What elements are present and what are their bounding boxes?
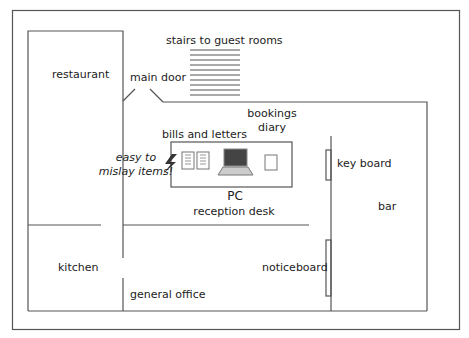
warning-label-2: mislay items! <box>99 165 173 178</box>
reception-desk-label: reception desk <box>193 205 274 218</box>
restaurant-label: restaurant <box>52 68 109 81</box>
stairs-icon <box>190 50 240 95</box>
warning-label-1: easy to <box>116 151 156 164</box>
diary-label-text: diary <box>258 121 286 134</box>
noticeboard-label: noticeboard <box>262 261 328 274</box>
pc-label: PC <box>227 190 243 203</box>
bar-label: bar <box>378 200 396 213</box>
kitchen-label: kitchen <box>58 261 99 274</box>
bills-label: bills and letters <box>162 128 247 141</box>
bills-icon <box>182 152 209 169</box>
restaurant-wall <box>28 31 123 145</box>
bookings-label: bookings <box>247 107 297 120</box>
floor-plan-drawing <box>0 0 469 338</box>
key-board-shape <box>326 150 331 180</box>
diary-icon <box>265 155 277 170</box>
door-right-leaf <box>150 89 163 102</box>
main-door-label: main door <box>130 71 186 84</box>
door-left-leaf <box>123 89 135 101</box>
general-office-label: general office <box>130 288 206 301</box>
pc-icon <box>218 149 253 175</box>
stairs-label: stairs to guest rooms <box>166 34 283 47</box>
key-board-label: key board <box>337 157 392 170</box>
